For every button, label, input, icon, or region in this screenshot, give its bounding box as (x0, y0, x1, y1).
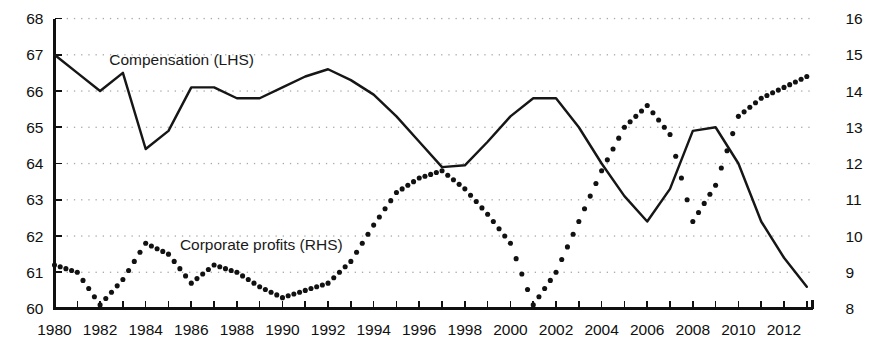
gridline-dot (535, 272, 536, 273)
gridline-dot (722, 54, 723, 55)
corporate-profits-marker (434, 170, 439, 175)
gridline-dot (808, 235, 809, 236)
gridline-dot (441, 163, 442, 164)
gridline-dot (650, 18, 651, 19)
gridline-dot (499, 199, 500, 200)
corporate-profits-marker (120, 277, 125, 282)
gridline-dot (268, 90, 269, 91)
gridline-dot (607, 235, 608, 236)
corporate-profits-marker (263, 287, 268, 292)
gridline-dot (542, 90, 543, 91)
gridline-dot (420, 163, 421, 164)
gridline-dot (679, 235, 680, 236)
corporate-profits-marker (274, 292, 279, 297)
gridline-dot (463, 235, 464, 236)
gridline-dot (636, 127, 637, 128)
corporate-profits-marker (440, 168, 445, 173)
gridline-dot (484, 272, 485, 273)
gridline-dot (146, 272, 147, 273)
corporate-profits-marker (616, 136, 621, 141)
corporate-profits-marker (337, 270, 342, 275)
corporate-profits-marker (588, 194, 593, 199)
corporate-profits-marker (685, 197, 690, 202)
corporate-profits-marker (103, 296, 108, 301)
gridline-dot (412, 127, 413, 128)
gridline-dot (182, 163, 183, 164)
corporate-profits-marker (451, 177, 456, 182)
x-axis-tick-label: 1988 (220, 321, 254, 338)
gridline-dot (700, 127, 701, 128)
gridline-dot (636, 54, 637, 55)
corporate-profits-marker (229, 268, 234, 273)
gridline-dot (290, 54, 291, 55)
gridline-dot (254, 163, 255, 164)
gridline-dot (405, 54, 406, 55)
gridline-dot (247, 18, 248, 19)
gridline-dot (405, 199, 406, 200)
x-axis-tick-label: 1994 (356, 321, 391, 338)
gridline-dot (513, 54, 514, 55)
gridline-dot (333, 272, 334, 273)
gridline-dot (542, 18, 543, 19)
gridline-dot (744, 199, 745, 200)
gridline-dot (808, 90, 809, 91)
gridline-dot (700, 163, 701, 164)
gridline-dot (549, 90, 550, 91)
corporate-profits-marker (662, 125, 667, 130)
gridline-dot (376, 127, 377, 128)
gridline-dot (420, 199, 421, 200)
gridline-dot (376, 54, 377, 55)
gridline-dot (672, 127, 673, 128)
gridline-dot (304, 272, 305, 273)
gridline-dot (110, 127, 111, 128)
corporate-profits-marker (793, 79, 798, 84)
gridline-dot (355, 18, 356, 19)
corporate-profits-marker (394, 190, 399, 195)
left-axis-tick-labels: 606162636465666768 (26, 10, 44, 317)
gridline-dot (506, 90, 507, 91)
gridline-dot (571, 163, 572, 164)
gridline-dot (808, 163, 809, 164)
gridline-dot (218, 199, 219, 200)
right-axis-tick-label: 14 (846, 83, 864, 100)
gridline-dot (247, 127, 248, 128)
gridline-dot (801, 18, 802, 19)
gridline-dot (290, 199, 291, 200)
gridline-dot (650, 272, 651, 273)
gridline-dot (146, 127, 147, 128)
gridline-dot (758, 127, 759, 128)
gridline-dot (441, 90, 442, 91)
gridline-dot (247, 272, 248, 273)
gridline-dot (686, 235, 687, 236)
gridline-dot (67, 163, 68, 164)
gridline-dot (74, 235, 75, 236)
gridline-dot (535, 90, 536, 91)
gridline-dot (333, 163, 334, 164)
gridline-dot (520, 90, 521, 91)
gridline-dot (564, 235, 565, 236)
gridline-dot (556, 199, 557, 200)
x-axis-tick-label: 1982 (83, 321, 117, 338)
gridline-dot (312, 163, 313, 164)
gridline-dot (751, 90, 752, 91)
gridline-dot (780, 272, 781, 273)
gridline-dot (398, 54, 399, 55)
gridline-dot (556, 235, 557, 236)
gridline-dot (405, 163, 406, 164)
gridline-dot (211, 90, 212, 91)
economic-line-chart: 606162636465666768 8910111213141516 1980… (0, 0, 883, 358)
gridline-dot (780, 163, 781, 164)
gridline-dot (585, 272, 586, 273)
gridline-dot (621, 18, 622, 19)
gridline-dot (175, 90, 176, 91)
gridline-dot (643, 272, 644, 273)
gridline-dot (225, 163, 226, 164)
gridline-dot (96, 163, 97, 164)
corporate-profits-marker (109, 290, 114, 295)
gridline-dot (585, 90, 586, 91)
gridline-dot (117, 90, 118, 91)
gridline-dot (578, 163, 579, 164)
gridline-dot (643, 18, 644, 19)
corporate-profits-marker (667, 132, 672, 137)
gridline-dot (664, 235, 665, 236)
